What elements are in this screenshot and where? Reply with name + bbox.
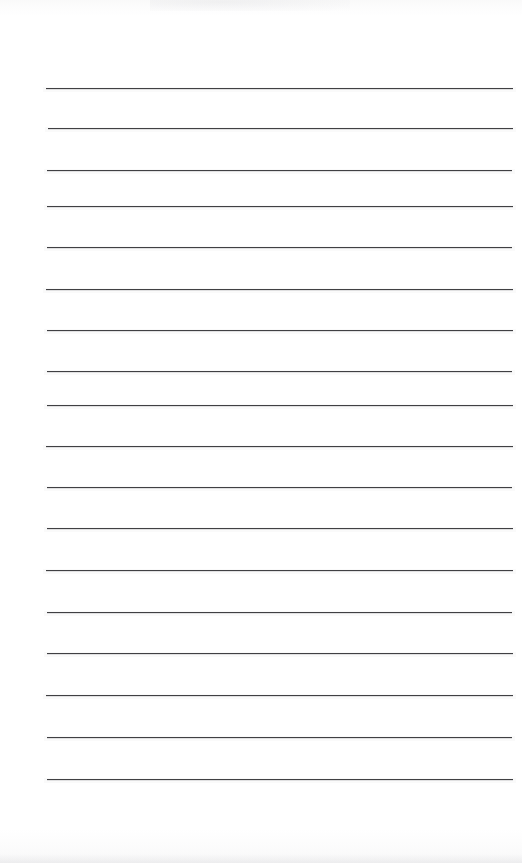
ruled-line	[48, 128, 513, 129]
ruled-line	[47, 405, 513, 406]
ruled-line	[47, 206, 513, 207]
scanned-page	[0, 0, 522, 863]
ruled-line	[46, 88, 513, 89]
ruled-line	[47, 653, 513, 654]
ruled-line	[47, 779, 513, 780]
ruled-lines-layer	[0, 0, 522, 863]
ruled-line	[46, 570, 513, 571]
ruled-line	[47, 330, 513, 331]
ruled-line	[47, 170, 512, 171]
ruled-line	[46, 446, 513, 447]
ruled-line	[46, 289, 513, 290]
ruled-line	[47, 247, 512, 248]
ruled-line	[46, 695, 513, 696]
ruled-line	[47, 528, 513, 529]
ruled-line	[47, 371, 512, 372]
ruled-line	[47, 487, 512, 488]
ruled-line	[47, 737, 512, 738]
ruled-line	[47, 612, 512, 613]
